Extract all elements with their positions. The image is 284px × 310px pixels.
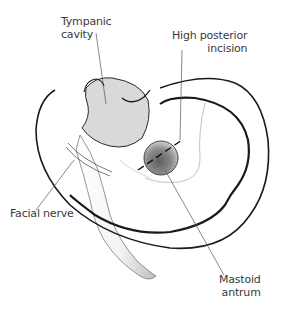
label-tympanic-line1: Tympanic <box>61 15 111 28</box>
tympanic-cavity-shape <box>82 78 149 147</box>
leader-line-antrum <box>165 170 224 275</box>
label-tympanic-cavity: Tympanic cavity <box>61 15 111 41</box>
label-facial-line1: Facial nerve <box>10 207 74 220</box>
label-incision-line1: High posterior <box>172 29 247 42</box>
label-incision-line2: incision <box>172 42 247 55</box>
label-high-posterior-incision: High posterior incision <box>172 29 247 55</box>
mastoid-antrum-shape <box>144 141 178 175</box>
label-antrum-line2: antrum <box>219 286 261 299</box>
label-antrum-line1: Mastoid <box>219 273 261 286</box>
leader-line-incision <box>180 50 182 140</box>
label-facial-nerve: Facial nerve <box>10 207 74 220</box>
label-tympanic-line2: cavity <box>61 28 111 41</box>
label-mastoid-antrum: Mastoid antrum <box>219 273 261 299</box>
